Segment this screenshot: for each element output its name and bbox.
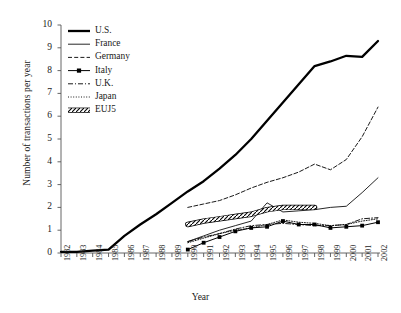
y-axis-tick-label: 3: [30, 180, 52, 190]
y-axis-tick-label: 4: [30, 157, 52, 167]
x-axis-tick-label: 1998: [318, 245, 326, 261]
x-axis-tick-label: 2001: [365, 245, 373, 261]
legend-label: EUJ5: [95, 105, 116, 114]
legend-label: Japan: [95, 92, 116, 101]
x-axis-tick-label: 1982: [64, 245, 72, 261]
x-axis-tick-label: 1997: [302, 245, 310, 261]
x-axis-tick-label: 1986: [128, 245, 136, 261]
legend-swatches: [68, 31, 90, 110]
x-axis-tick-label: 1987: [143, 245, 151, 261]
x-axis-tick-label: 1988: [159, 245, 167, 261]
x-axis-tick-label: 1985: [112, 245, 120, 261]
y-axis-tick-label: 2: [30, 202, 52, 212]
x-axis-tick-label: 1983: [80, 245, 88, 261]
x-axis-tick-label: 1991: [207, 245, 215, 261]
chart-figure: Number of transactions per year Year 012…: [0, 0, 401, 313]
y-axis-tick-label: 9: [30, 43, 52, 53]
y-axis-tick-label: 0: [30, 248, 52, 258]
x-axis-tick-label: 1993: [239, 245, 247, 261]
y-axis-tick-label: 8: [30, 66, 52, 76]
legend-label: France: [95, 39, 121, 48]
x-axis-tick-label: 1996: [286, 245, 294, 261]
series-line-germany: [188, 107, 378, 207]
y-axis-tick-label: 7: [30, 88, 52, 98]
legend-label: Italy: [95, 66, 112, 75]
x-axis-title: Year: [0, 292, 401, 302]
x-axis-tick-label: 2000: [350, 245, 358, 261]
x-axis-tick-label: 1999: [334, 245, 342, 261]
x-axis-tick-label: 1984: [96, 245, 104, 261]
x-axis-tick-label: 2002: [381, 245, 389, 261]
x-axis-tick-label: 1994: [254, 245, 262, 261]
x-axis-tick-label: 1995: [270, 245, 278, 261]
x-axis-tick-label: 1992: [223, 245, 231, 261]
plot-area: [0, 0, 401, 313]
legend-label: U.K.: [95, 79, 113, 88]
y-axis-tick-label: 10: [30, 20, 52, 30]
legend-label: U.S.: [95, 26, 112, 35]
series-line-euj5: [188, 207, 315, 224]
y-axis-tick-label: 1: [30, 225, 52, 235]
x-axis-tick-label: 1990: [191, 245, 199, 261]
y-axis-tick-label: 6: [30, 111, 52, 121]
legend-swatch-italy: [68, 69, 90, 73]
legend-label: Germany: [95, 52, 130, 61]
y-axis-tick-label: 5: [30, 134, 52, 144]
x-axis-tick-label: 1989: [175, 245, 183, 261]
